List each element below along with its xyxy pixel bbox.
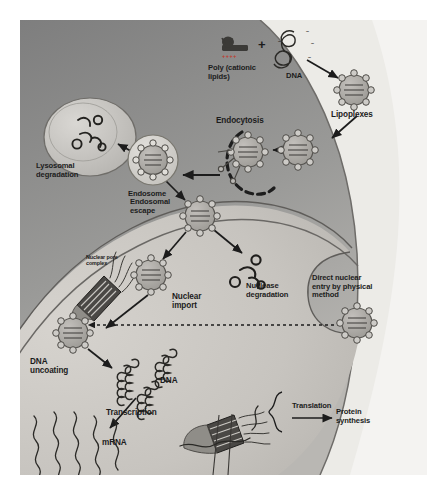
dna-top-label: DNA [286, 72, 302, 81]
nuclease-degradation-label: Nuclease degradation [246, 282, 306, 299]
poly-cationic-lipids-label: Poly (cationic lipids) [208, 64, 274, 81]
diagram-svg [20, 20, 427, 475]
diagram-figure: ++++ + Poly (cationic lipids) DNA – – – … [20, 20, 427, 475]
nuclear-import-label: Nuclear import [172, 292, 218, 310]
endocytosis-label: Endocytosis [216, 116, 264, 125]
lipoplexes-label: Lipoplexes [331, 110, 373, 119]
dna-nucleus-label: DNA [160, 376, 177, 385]
dna-uncoating-label: DNA uncoating [30, 357, 78, 375]
mrna-label: mRNA [102, 438, 127, 447]
translation-label: Translation [292, 402, 331, 411]
lysosomal-degradation-label: Lysosomal degradation [36, 162, 96, 179]
anionic-charge-1: – [306, 28, 309, 34]
endosome-vesicle [128, 135, 178, 185]
direct-nuclear-entry-label: Direct nuclear entry by physical method [312, 274, 386, 300]
lipoplex-particle [337, 303, 378, 344]
protein-synthesis-label: Protein synthesis [336, 408, 382, 425]
anionic-charge-2: – [311, 40, 314, 46]
transcription-label: Transcription [106, 408, 157, 417]
nuclear-pore-complex-label: Nuclear pore complex [86, 254, 138, 266]
lipoplex-particle [334, 70, 375, 111]
anionic-charge-3: – [308, 54, 311, 60]
plus-sign: + [258, 38, 266, 53]
lipoplex-particle [278, 130, 319, 171]
endosomal-escape-label: Endosomal escape [130, 198, 188, 215]
cationic-charges: ++++ [222, 53, 237, 59]
figure-canvas: ++++ + Poly (cationic lipids) DNA – – – … [0, 0, 447, 495]
lipoplex-particle [53, 313, 94, 354]
anionic-charge-4: – [278, 38, 281, 44]
